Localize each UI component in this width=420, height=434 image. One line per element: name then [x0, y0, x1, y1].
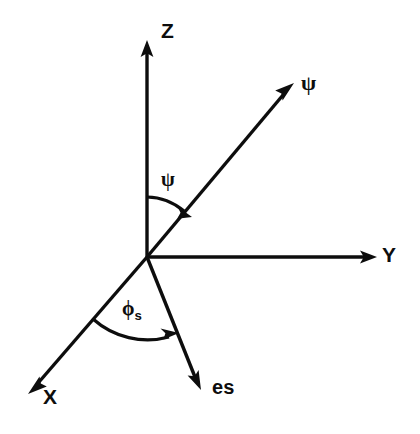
es-axis-label: es [212, 377, 234, 397]
axes-drawing [0, 0, 420, 434]
coordinate-system-diagram: Z Y X ψ es ψ ϕs [0, 0, 420, 434]
z-axis-label: Z [161, 20, 174, 41]
x-axis-line [28, 257, 147, 394]
phi-subscript-text: s [134, 308, 141, 323]
psi-angle-arc [147, 197, 192, 219]
z-axis-line [141, 40, 154, 257]
psi-angle-label: ψ [161, 169, 175, 189]
es-axis-line [147, 257, 201, 390]
y-axis-label: Y [382, 244, 396, 265]
x-axis-label: X [43, 386, 57, 407]
es-subscript-text: s [223, 376, 234, 398]
psi-axis-label: ψ [301, 72, 316, 94]
y-axis-line [147, 251, 377, 264]
es-base-text: e [212, 376, 223, 398]
phi-base-text: ϕ [122, 297, 134, 319]
phi-s-angle-label: ϕs [122, 298, 142, 322]
